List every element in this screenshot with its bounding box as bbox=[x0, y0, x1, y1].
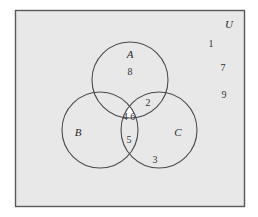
venn-diagram-figure: A B C U 8 3 2 5 4 6 1 7 9 bbox=[0, 0, 258, 217]
outside-element-3: 9 bbox=[222, 89, 227, 100]
region-element-b-and-c: 5 bbox=[127, 134, 132, 145]
region-element-a-only: 8 bbox=[128, 66, 133, 77]
region-element-c-only: 3 bbox=[153, 154, 158, 165]
outside-element-1: 1 bbox=[209, 38, 214, 49]
venn-diagram-canvas: A B C U 8 3 2 5 4 6 1 7 9 bbox=[0, 0, 258, 217]
set-label-b: B bbox=[75, 126, 82, 138]
region-element-a-and-c: 2 bbox=[146, 97, 151, 108]
region-element-a-and-b-and-c: 4 6 bbox=[123, 111, 136, 122]
outside-element-2: 7 bbox=[221, 62, 226, 73]
set-label-c: C bbox=[174, 126, 182, 138]
set-label-a: A bbox=[126, 48, 134, 60]
universe-label: U bbox=[225, 18, 234, 30]
